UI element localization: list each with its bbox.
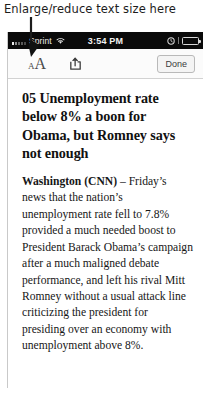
text-size-icon[interactable]: A A <box>28 56 46 72</box>
carrier-label: Sprint <box>29 36 52 46</box>
article-lede-source: Washington (CNN) <box>22 175 117 188</box>
article-body: Washington (CNN) – Friday’s news that th… <box>22 174 193 355</box>
alarm-clock-icon <box>167 37 175 45</box>
status-bar: Sprint 3:54 PM <box>8 32 203 49</box>
article-content: 05 Unemployment rate below 8% a boon for… <box>8 79 203 355</box>
reader-toolbar: A A Done <box>8 49 203 79</box>
article-body-text: – Friday’s news that the nation’s unempl… <box>22 175 193 353</box>
done-button[interactable]: Done <box>157 55 195 73</box>
battery-icon <box>182 37 199 45</box>
text-size-large-a: A <box>35 56 47 72</box>
share-icon[interactable] <box>68 56 83 71</box>
status-bar-left: Sprint <box>12 36 66 46</box>
phone-screen: Sprint 3:54 PM A A <box>7 32 203 388</box>
status-bar-separator <box>178 37 179 44</box>
article-headline: 05 Unemployment rate below 8% a boon for… <box>22 89 193 163</box>
signal-bars-icon <box>12 37 26 45</box>
annotation-label: Enlarge/reduce text size here <box>4 2 176 16</box>
status-bar-right <box>167 37 199 45</box>
wifi-icon <box>55 36 66 45</box>
